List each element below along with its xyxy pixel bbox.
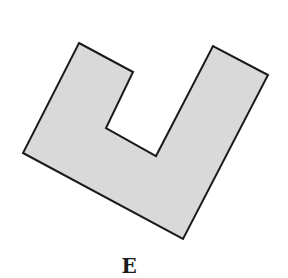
shape-e-figure	[0, 0, 288, 278]
figure-label: E	[0, 254, 258, 278]
u-shaped-polygon	[23, 43, 268, 239]
